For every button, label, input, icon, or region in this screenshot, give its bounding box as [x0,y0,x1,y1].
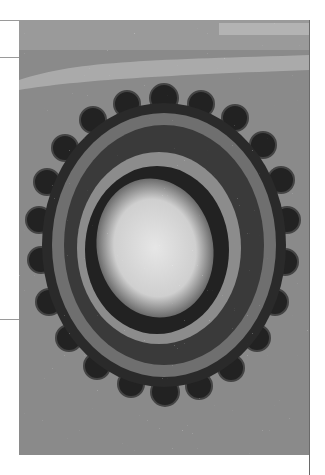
virus-micrograph [19,20,309,455]
margin-rule-middle [0,319,19,320]
margin-rule-top [0,20,19,21]
margin-rule-right [309,20,310,475]
virus-micrograph-graphic [19,20,309,455]
margin-rule-upper [0,57,19,58]
